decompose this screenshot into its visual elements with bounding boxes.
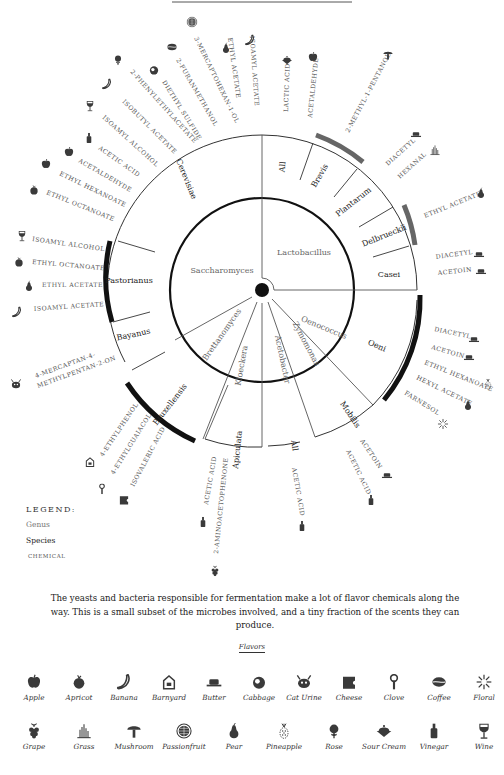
coffee-icon <box>167 44 176 50</box>
legend-chemical: CHEMICAL <box>28 553 65 559</box>
bar-oeni <box>384 295 420 400</box>
chemical-label: ETHYL OCTANOATE <box>32 258 105 271</box>
flavor-label: Banana <box>110 693 137 702</box>
mushroom-icon <box>126 717 142 739</box>
butter-icon <box>476 269 486 274</box>
floral-icon <box>438 419 448 429</box>
butter-icon <box>411 132 421 137</box>
species-label: Bruxellensis <box>151 382 189 427</box>
flavor-label: Clove <box>384 693 404 702</box>
cheese-icon <box>120 496 128 504</box>
bar-delbrueckii <box>404 205 415 245</box>
butter-icon <box>382 473 392 478</box>
sourcream-icon <box>282 56 292 64</box>
flavor-key-butter: Butter <box>194 668 234 702</box>
apple-icon <box>26 668 42 690</box>
legend-genus: Genus <box>26 520 50 529</box>
flavor-label: Grass <box>74 742 95 751</box>
genus-label: Lactobacillus <box>277 248 331 257</box>
apple-icon <box>65 147 73 156</box>
flavor-label: Apricot <box>66 693 93 702</box>
vinegar-icon <box>201 517 206 527</box>
species-label: Oeni <box>367 338 388 354</box>
flavor-key-mushroom: Mushroom <box>114 717 154 751</box>
flavor-key-rose: Rose <box>314 717 354 751</box>
flavor-key-row-2: GrapeGrassMushroomPassionfruitPearPineap… <box>14 717 504 751</box>
chemical-label: ISOAMYL ACETATE <box>34 300 105 312</box>
flavor-key-floral: Floral <box>464 668 504 702</box>
flavor-key-cabbage: Cabbage <box>239 668 279 702</box>
flavor-key-passionfruit: Passionfruit <box>164 717 204 751</box>
caption: The yeasts and bacteria responsible for … <box>40 592 470 633</box>
chemical-label: ACETOIN <box>359 437 385 470</box>
chemical-label: ISOAMYL ACETATE <box>249 36 261 107</box>
species-label: Cerevisiae <box>174 158 198 201</box>
cabbage-icon <box>251 668 267 690</box>
legend-title: LEGEND: <box>26 505 76 514</box>
flavor-label: Pear <box>226 742 243 751</box>
flavor-key-grape: Grape <box>14 717 54 751</box>
flavor-label: Floral <box>473 693 495 702</box>
flavor-key-sourcream: Sour Cream <box>364 717 404 751</box>
chemical-label: 4-ETHYLPHENOL <box>98 401 139 458</box>
grass-icon <box>430 145 439 154</box>
apricot-icon <box>71 668 87 690</box>
pear-icon <box>26 281 32 292</box>
cheese-icon <box>341 668 357 690</box>
apple-icon <box>42 159 50 168</box>
flavor-label: Passionfruit <box>162 742 205 751</box>
coffee-icon <box>431 668 447 690</box>
species-labels: CerevisiaePastorianusBayanusBruxellensis… <box>105 158 408 471</box>
flavor-key-apricot: Apricot <box>59 668 99 702</box>
grape-icon <box>26 717 42 739</box>
clove-icon <box>386 668 402 690</box>
flavor-label: Pineapple <box>266 742 302 751</box>
species-label: Apiculata <box>231 430 244 470</box>
caturine-icon <box>11 379 20 388</box>
clove-icon <box>100 484 105 494</box>
chemical-label: DIACETYL <box>434 325 472 340</box>
chemical-label: ACETOIN <box>436 265 472 276</box>
flavor-label: Coffee <box>427 693 450 702</box>
flavor-key-caturine: Cat Urine <box>284 668 324 702</box>
flavor-label: Butter <box>202 693 225 702</box>
pear-icon <box>226 717 242 739</box>
floral-icon <box>476 668 492 690</box>
chemical-label: DIACETYL <box>435 248 473 260</box>
chemical-label: ETHYL ACETATE <box>227 37 242 98</box>
flavor-label: Mushroom <box>114 742 153 751</box>
wine-icon <box>19 231 25 241</box>
species-label: All <box>289 439 300 452</box>
banana-icon <box>13 307 21 317</box>
flavor-wheel-diagram: SaccharomycesLactobacillusOenococcusZymo… <box>0 0 504 590</box>
apricot-icon <box>30 185 37 194</box>
flavor-key-clove: Clove <box>374 668 414 702</box>
flavor-label: Apple <box>24 693 45 702</box>
flavor-label: Sour Cream <box>362 742 406 751</box>
species-label: Brevis <box>310 162 331 189</box>
flavor-key-wine: Wine <box>464 717 504 751</box>
flavor-label: Vinegar <box>420 742 449 751</box>
species-label: Pastorianus <box>105 276 153 285</box>
flavor-label: Cat Urine <box>286 693 322 702</box>
chemical-label: LACTIC ACID <box>282 63 291 112</box>
passionfruit-icon <box>187 17 197 27</box>
barnyard-icon <box>161 668 177 690</box>
flavor-label: Wine <box>475 742 493 751</box>
vinegar-icon <box>426 717 442 739</box>
flavor-key-banana: Banana <box>104 668 144 702</box>
banana-icon <box>116 668 132 690</box>
genus-label: Acetobacter <box>273 334 292 385</box>
chemical-label: ACETIC ACID <box>202 456 218 507</box>
flavors-title: Flavors <box>0 643 504 651</box>
species-label: All <box>277 160 287 173</box>
butter-icon <box>206 668 222 690</box>
flavor-label: Barnyard <box>152 693 186 702</box>
sourcream-icon <box>376 717 392 739</box>
chemical-label: ACETIC ACID <box>291 466 307 517</box>
chemical-label: FARNESOL <box>403 389 441 416</box>
flavors-title-text: Flavors <box>239 643 265 653</box>
bar-brevis <box>316 135 363 162</box>
legend-species: Species <box>26 536 55 545</box>
rose-icon <box>326 717 342 739</box>
